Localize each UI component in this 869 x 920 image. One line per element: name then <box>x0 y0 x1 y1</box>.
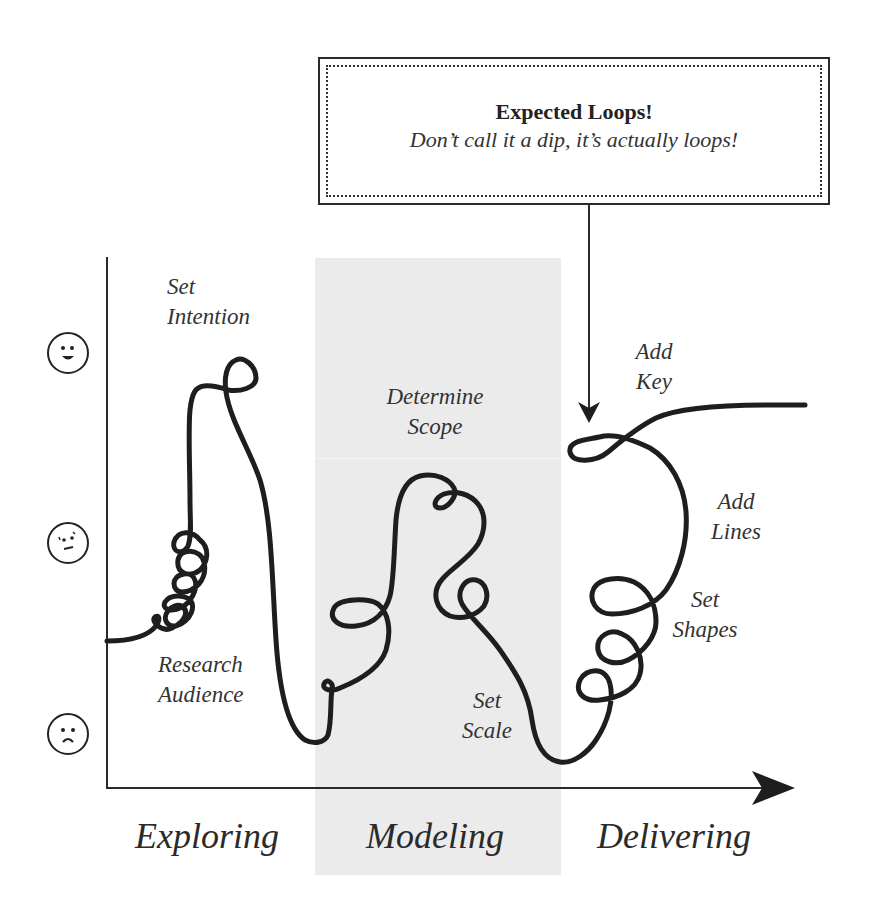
diagram-canvas <box>0 0 869 920</box>
annotation-line: Key <box>622 367 686 397</box>
annotation-add-key: Add Key <box>622 337 686 397</box>
annotation-line: Scope <box>360 412 510 442</box>
annotation-line: Add <box>622 337 686 367</box>
annotation-line: Add <box>700 487 772 517</box>
phase-label-exploring: Exploring <box>135 815 279 857</box>
annotation-set-intention: Set Intention <box>167 272 250 332</box>
happy-face-icon <box>46 331 90 375</box>
phase-label-modeling: Modeling <box>366 815 504 857</box>
annotation-line: Set <box>662 585 748 615</box>
annotation-line: Intention <box>167 302 250 332</box>
annotation-add-lines: Add Lines <box>700 487 772 547</box>
annotation-line: Set <box>167 272 250 302</box>
annotation-line: Determine <box>360 382 510 412</box>
annotation-line: Audience <box>158 680 244 710</box>
annotation-line: Lines <box>700 517 772 547</box>
annotation-line: Shapes <box>662 615 748 645</box>
annotation-line: Research <box>158 650 244 680</box>
annotation-line: Scale <box>452 716 522 746</box>
phase-label-delivering: Delivering <box>597 815 751 857</box>
annotation-determine-scope: Determine Scope <box>360 382 510 442</box>
sad-face-icon <box>46 712 90 756</box>
confused-face-icon <box>46 521 90 565</box>
annotation-research-audience: Research Audience <box>158 650 244 710</box>
annotation-set-shapes: Set Shapes <box>662 585 748 645</box>
annotation-line: Set <box>452 686 522 716</box>
annotation-set-scale: Set Scale <box>452 686 522 746</box>
